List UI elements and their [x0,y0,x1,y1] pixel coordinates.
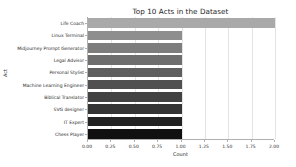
bar [88,92,182,102]
y-tick-label: Machine Learning Engineer [23,82,84,87]
bar [88,68,182,78]
y-axis-tick-labels: Life CoachLinux TerminalMidjourney Promp… [0,17,87,140]
bar [88,117,182,127]
x-tick-mark [274,140,275,142]
bar [88,129,182,139]
x-tick-label: 0.50 [129,144,139,149]
y-tick-label: Midjourney Prompt Generator [17,45,84,50]
bar [88,104,182,114]
y-tick-label: Biblical Translator [44,94,84,99]
y-tick-label: Chess Player [55,131,84,136]
bar-series [88,17,274,139]
x-tick-label: 1.25 [199,144,209,149]
x-tick-mark [110,140,111,142]
y-tick-label: SVG designer [54,107,84,112]
x-tick-label: 0.75 [152,144,162,149]
plot-area [87,17,274,140]
x-tick-mark [87,140,88,142]
bar-row [88,54,275,66]
x-tick-mark [251,140,252,142]
bar-row [88,103,275,115]
gridline [275,17,276,139]
x-tick-label: 1.50 [222,144,232,149]
y-tick-label: Personal Stylist [50,70,84,75]
x-tick-label: 1.00 [175,144,185,149]
bar [88,31,182,41]
y-tick-label: Life Coach [60,21,84,26]
x-tick-label: 0.25 [105,144,115,149]
y-tick-label: Linux Terminal [51,33,84,38]
bar-row [88,115,275,127]
x-tick-label: 2.00 [269,144,279,149]
chart-title: Top 10 Acts in the Dataset [87,7,274,16]
bar-row [88,79,275,91]
x-axis-label: Count [87,151,274,157]
x-tick-mark [181,140,182,142]
x-tick-mark [134,140,135,142]
x-tick-label: 1.75 [246,144,256,149]
bar-row [88,17,275,29]
x-tick-mark [157,140,158,142]
bar-row [88,42,275,54]
bar-row [88,91,275,103]
x-tick-mark [204,140,205,142]
y-tick-label: Legal Advisor [54,58,84,63]
y-tick-label: IT Expert [64,119,84,124]
bar-row [88,128,275,140]
bar [88,80,182,90]
x-tick-mark [227,140,228,142]
chart-figure: Top 10 Acts in the Dataset Act Life Coac… [0,0,296,167]
x-tick-label: 0.00 [82,144,92,149]
bar [88,55,182,65]
bar [88,18,275,28]
bar [88,43,182,53]
bar-row [88,66,275,78]
bar-row [88,29,275,41]
